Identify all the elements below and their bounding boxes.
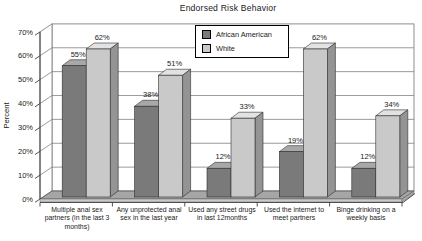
- legend-item-white: White: [202, 44, 283, 53]
- bar-value-label: 38%: [143, 90, 158, 99]
- y-tick-label: 60%: [18, 51, 33, 60]
- legend-label-african-american: African American: [216, 31, 272, 38]
- bar-white-0: [86, 49, 110, 197]
- y-tick-label: 70%: [18, 28, 33, 37]
- bar-value-label: 12%: [215, 152, 230, 161]
- bar-side-1-1: [183, 69, 191, 197]
- bar-african-american-1: [135, 106, 159, 197]
- bar-value-label: 33%: [239, 102, 254, 111]
- bar-side-1-4: [400, 110, 408, 197]
- category-label-unprotected-anal-sex: Any unprotected anal sex in the last yea…: [113, 206, 185, 223]
- bar-white-2: [231, 118, 255, 197]
- bar-white-4: [376, 116, 400, 197]
- y-tick-label: 20%: [18, 147, 33, 156]
- bar-african-american-0: [62, 66, 86, 197]
- legend-label-white: White: [216, 45, 235, 52]
- y-tick: [35, 199, 40, 202]
- bar-white-1: [159, 75, 183, 197]
- category-label-binge-drinking: Binge drinking on a weekly basis: [330, 206, 402, 223]
- y-tick: [35, 56, 40, 59]
- y-tick: [35, 32, 40, 35]
- category-label-multiple-anal-sex-partners: Multiple anal sex partners (in the last …: [41, 206, 113, 231]
- bar-side-1-2: [255, 112, 263, 197]
- category-label-internet-partners: Used the internet to meet partners: [258, 206, 330, 223]
- bar-side-1-3: [327, 43, 335, 197]
- y-tick: [35, 175, 40, 178]
- bar-side-1-0: [110, 43, 118, 197]
- bar-chart-endorsed-risk-behavior: 0%10%20%30%40%50%60%70%55%62%38%51%12%33…: [0, 0, 422, 241]
- bar-value-label: 62%: [312, 33, 327, 42]
- legend-item-african-american: African American: [202, 30, 283, 39]
- y-tick-label: 0%: [22, 195, 33, 204]
- bar-value-label: 12%: [360, 152, 375, 161]
- y-tick-label: 40%: [18, 99, 33, 108]
- side-wall: [40, 24, 52, 199]
- y-axis-title: Percent: [2, 86, 11, 146]
- bar-value-label: 19%: [288, 136, 303, 145]
- category-label-street-drugs: Used any street drugs in last 12months: [186, 206, 258, 223]
- bar-african-american-2: [207, 168, 231, 197]
- y-tick-label: 10%: [18, 171, 33, 180]
- legend-swatch-african-american: [202, 30, 211, 39]
- bar-white-3: [303, 49, 327, 197]
- bar-value-label: 34%: [384, 100, 399, 109]
- chart-title: Endorsed Risk Behavior: [40, 3, 416, 13]
- legend: African American White: [195, 25, 289, 58]
- bar-value-label: 55%: [71, 50, 86, 59]
- y-tick-label: 30%: [18, 123, 33, 132]
- bar-african-american-3: [279, 152, 303, 197]
- legend-swatch-white: [202, 44, 211, 53]
- bar-value-label: 51%: [167, 59, 182, 68]
- y-tick: [35, 127, 40, 130]
- floor-front-face: [40, 199, 402, 202]
- y-tick: [35, 80, 40, 83]
- bar-african-american-4: [352, 168, 376, 197]
- bar-value-label: 62%: [95, 33, 110, 42]
- y-tick-label: 50%: [18, 75, 33, 84]
- y-tick: [35, 104, 40, 107]
- y-tick: [35, 151, 40, 154]
